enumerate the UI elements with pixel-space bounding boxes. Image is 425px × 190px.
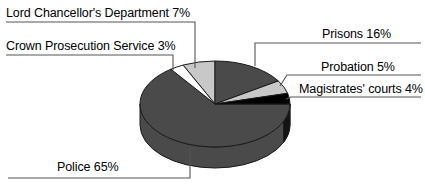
slice-label-magistrates-courts: Magistrates' courts 4% xyxy=(299,82,423,96)
slice-label-police: Police 65% xyxy=(57,160,119,174)
pie-top-face xyxy=(140,61,290,147)
leader-line-magistrates-courts xyxy=(286,97,421,99)
pie-chart-figure: Lord Chancellor's Department 7% Crown Pr… xyxy=(0,0,425,190)
slice-label-lord-chancellors-department: Lord Chancellor's Department 7% xyxy=(6,6,190,20)
leader-line-crown-prosecution-service xyxy=(6,55,173,70)
slice-label-prisons: Prisons 16% xyxy=(322,27,391,41)
slice-label-crown-prosecution-service: Crown Prosecution Service 3% xyxy=(6,39,176,53)
slice-label-probation: Probation 5% xyxy=(321,60,395,74)
